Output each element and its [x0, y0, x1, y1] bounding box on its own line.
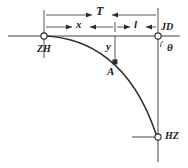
transition-curve-path: [44, 36, 156, 134]
zh-point-marker: [41, 33, 47, 39]
hz-point-marker: [155, 134, 161, 140]
jd-point-marker: [155, 33, 161, 39]
label-curve-end-point: HZ: [165, 131, 179, 141]
transition-curve-figure: T x l JD ZH y A HZ θ: [0, 0, 188, 168]
label-curve-point: A: [107, 66, 114, 77]
label-abscissa: x: [76, 19, 82, 30]
label-tangent-length: T: [96, 5, 103, 17]
label-ordinate: y: [106, 41, 111, 52]
label-offset-length: l: [134, 19, 137, 30]
label-intersection-point: JD: [161, 22, 173, 32]
label-deflection-angle: θ: [167, 42, 173, 53]
theta-angle-arc: [160, 41, 163, 47]
a-point-marker: [112, 59, 117, 64]
figure-canvas: [0, 0, 188, 168]
label-curve-start-point: ZH: [37, 44, 51, 54]
